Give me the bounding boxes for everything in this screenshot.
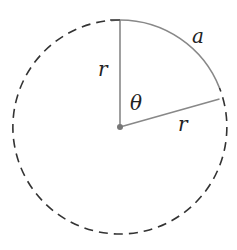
- circle-sector-diagram: r θ r a: [0, 0, 237, 250]
- label-radius-slanted: r: [178, 112, 189, 136]
- label-angle-theta: θ: [130, 91, 142, 115]
- label-arc-a: a: [192, 24, 204, 48]
- arc-a: [120, 20, 220, 88]
- label-radius-vertical: r: [98, 57, 109, 81]
- center-dot: [117, 124, 123, 130]
